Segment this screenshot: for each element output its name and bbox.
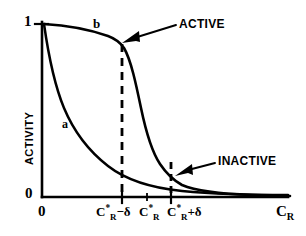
plot-svg xyxy=(0,0,306,236)
tick-marks xyxy=(35,24,171,203)
x-tick-label-upper-threshold: C*R+δ xyxy=(167,205,202,218)
inactive-arrowhead xyxy=(175,164,193,176)
curve-b-path xyxy=(44,24,290,196)
inactive-annotation-label: INACTIVE xyxy=(218,155,276,167)
x-axis-label: CR xyxy=(276,204,294,219)
x-tick-label-critical: C*R xyxy=(139,205,159,218)
threshold-lines xyxy=(122,44,171,196)
curve-a-label: a xyxy=(62,118,68,130)
tick-lower-tail: −δ xyxy=(116,204,130,219)
curve-b-label: b xyxy=(93,17,100,30)
x-axis-label-sub: R xyxy=(287,211,294,222)
active-arrowhead xyxy=(122,31,140,43)
curve-a-path xyxy=(44,24,288,195)
inactive-annotation-leader xyxy=(175,163,215,176)
figure-canvas: ACTIVITY 1 0 0 C*R−δ C*R C*R+δ CR b a AC… xyxy=(0,0,306,236)
tick-middle-base: C xyxy=(139,204,148,219)
tick-upper-base: C xyxy=(167,204,176,219)
y-tick-label-0: 0 xyxy=(25,186,33,201)
active-annotation-leader xyxy=(122,25,176,43)
x-axis-label-base: C xyxy=(276,203,287,219)
y-axis-label: ACTIVITY xyxy=(24,112,35,165)
y-tick-label-1: 1 xyxy=(24,14,32,29)
tick-lower-base: C xyxy=(96,204,105,219)
x-tick-label-origin: 0 xyxy=(38,204,46,219)
active-annotation-label: ACTIVE xyxy=(179,18,225,30)
active-leader-line xyxy=(134,25,176,38)
tick-upper-tail: +δ xyxy=(187,204,201,219)
tick-middle-sub: R xyxy=(153,212,159,222)
x-tick-label-lower-threshold: C*R−δ xyxy=(96,205,131,218)
